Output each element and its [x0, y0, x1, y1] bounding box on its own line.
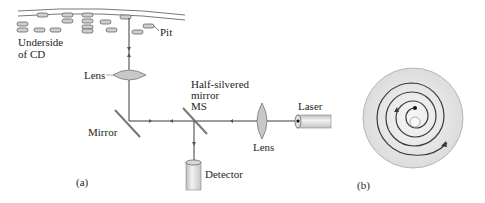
- label-mirror: Mirror: [88, 126, 118, 138]
- mirror-icon: [115, 110, 140, 137]
- label-lens-right: Lens: [253, 141, 274, 153]
- panel-a-label: (a): [76, 176, 89, 189]
- lens-right-icon: [257, 103, 267, 139]
- label-of-cd: of CD: [18, 48, 45, 60]
- cd-player-diagram: Underside of CD Pit Lens Mirror Half-sil…: [0, 0, 485, 203]
- panel-a: Underside of CD Pit Lens Mirror Half-sil…: [17, 9, 331, 190]
- label-laser: Laser: [298, 100, 323, 112]
- pits: [17, 13, 154, 34]
- cd-center-hole: [410, 117, 420, 127]
- label-ms: MS: [191, 100, 207, 112]
- label-detector: Detector: [205, 168, 243, 180]
- laser-icon: [295, 115, 331, 128]
- detector-icon: [186, 160, 201, 190]
- label-lens-top: Lens: [84, 69, 105, 81]
- lens-top-icon: [113, 70, 146, 80]
- label-underside: Underside: [18, 36, 63, 48]
- panel-b-label: (b): [357, 179, 370, 192]
- label-pit: Pit: [160, 26, 172, 38]
- panel-b: (b): [357, 68, 463, 192]
